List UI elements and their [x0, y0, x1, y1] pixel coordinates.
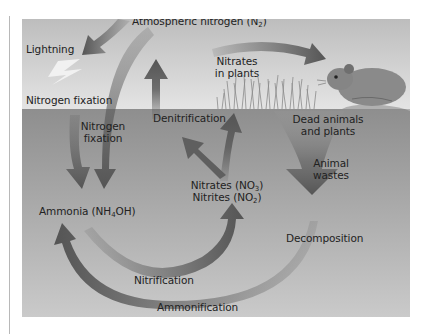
- label-dead-animals-and-plants: Dead animalsand plants: [288, 113, 368, 137]
- label-nitrates-nitrites: Nitrates (NO3) Nitrites (NO2): [172, 179, 282, 203]
- nitrogen-cycle-figure: Atmospheric nitrogen (N2) Lightning Nitr…: [22, 19, 410, 317]
- label-decomposition: Decomposition: [286, 232, 363, 244]
- label-nitrogen-fixation-soil: Nitrogenfixation: [74, 120, 132, 144]
- label-animal-wastes: Animalwastes: [306, 157, 356, 181]
- label-nitrogen-fixation-surface: Nitrogen fixation: [26, 94, 112, 106]
- label-denitrification: Denitrification: [153, 112, 226, 124]
- label-nitrification: Nitrification: [134, 274, 194, 286]
- label-atmospheric-nitrogen: Atmospheric nitrogen (N2): [132, 19, 267, 27]
- label-ammonia: Ammonia (NH4OH): [39, 205, 135, 217]
- margin-rule: [9, 16, 10, 334]
- label-lightning: Lightning: [26, 43, 74, 55]
- label-nitrates-in-plants: Nitratesin plants: [208, 55, 266, 79]
- label-ammonification: Ammonification: [157, 301, 238, 313]
